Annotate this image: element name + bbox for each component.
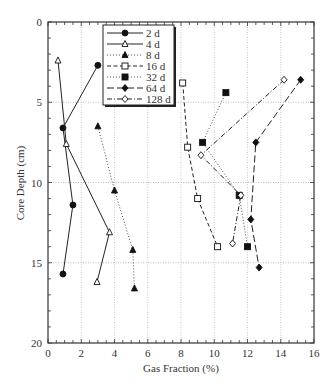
- series-line: [251, 80, 301, 268]
- square-marker: [245, 244, 251, 250]
- gas-fraction-chart: 024681012141605101520 2 d4 d8 d16 d32 d6…: [0, 0, 335, 388]
- x-tick-label: 6: [145, 347, 151, 359]
- y-tick-label: 5: [37, 96, 43, 108]
- grid-lines: [48, 22, 314, 343]
- series-32d: [200, 90, 251, 250]
- y-tick-label: 0: [37, 16, 43, 28]
- square-marker: [122, 74, 128, 80]
- triangle-marker: [95, 123, 101, 129]
- x-axis-label: Gas Fraction (%): [143, 362, 219, 375]
- square-marker: [185, 144, 191, 150]
- circle-marker: [70, 202, 76, 208]
- y-tick-label: 15: [31, 257, 43, 269]
- triangle-marker: [55, 57, 61, 63]
- series-line: [58, 61, 110, 283]
- x-tick-label: 2: [79, 347, 85, 359]
- x-tick-label: 12: [242, 347, 253, 359]
- x-tick-label: 10: [209, 347, 221, 359]
- data-series: [55, 57, 304, 291]
- triangle-marker: [63, 140, 69, 146]
- diamond-marker: [198, 152, 204, 159]
- triangle-marker: [107, 229, 113, 235]
- diamond-marker: [230, 240, 236, 247]
- square-marker: [195, 196, 201, 202]
- triangle-marker: [112, 187, 118, 193]
- x-tick-label: 16: [309, 347, 321, 359]
- square-marker: [215, 244, 221, 250]
- series-line: [98, 126, 134, 288]
- diamond-marker: [256, 264, 262, 271]
- series-line: [63, 65, 98, 274]
- triangle-marker: [94, 279, 100, 285]
- x-tick-label: 8: [178, 347, 184, 359]
- triangle-marker: [130, 246, 136, 252]
- square-marker: [200, 139, 206, 145]
- y-tick-label: 10: [31, 177, 43, 189]
- legend-label: 128 d: [146, 93, 171, 105]
- x-tick-label: 4: [112, 347, 118, 359]
- series-line: [203, 93, 248, 247]
- series-line: [201, 80, 284, 244]
- square-marker: [122, 63, 128, 69]
- legend: 2 d4 d8 d16 d32 d64 d128 d: [103, 25, 176, 107]
- y-tick-label: 20: [31, 337, 43, 349]
- triangle-marker: [131, 285, 137, 291]
- series-2d: [60, 62, 101, 277]
- square-marker: [223, 90, 229, 96]
- x-tick-label: 0: [45, 347, 51, 359]
- square-marker: [180, 80, 186, 86]
- circle-marker: [122, 30, 128, 36]
- x-tick-label: 14: [275, 347, 287, 359]
- circle-marker: [60, 271, 66, 277]
- series-line: [183, 83, 218, 247]
- circle-marker: [95, 62, 101, 68]
- diamond-marker: [248, 216, 254, 223]
- y-axis-label: Core Depth (cm): [14, 145, 27, 220]
